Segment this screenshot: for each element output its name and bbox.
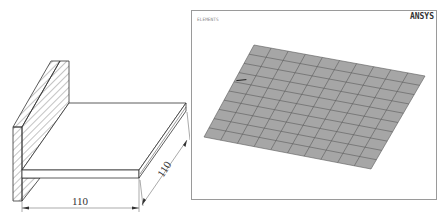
depth-dimension-label: 110 bbox=[155, 159, 174, 179]
ansys-viewport: ELEMENTS ANSYS bbox=[191, 10, 437, 200]
dimension-width: 110 bbox=[22, 178, 139, 212]
width-dimension-label: 110 bbox=[72, 195, 89, 207]
technical-drawing: 110 110 bbox=[0, 0, 190, 219]
element-mesh bbox=[192, 11, 438, 201]
